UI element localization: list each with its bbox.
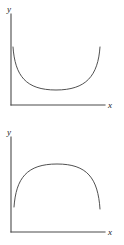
curve-concave-up (13, 47, 100, 90)
x-axis-label-bottom: x (107, 227, 112, 237)
axes-top (11, 14, 105, 105)
x-axis-label-top: x (107, 100, 112, 110)
curve-concave-down (14, 164, 100, 209)
plot-panel-bottom: y x (0, 123, 124, 245)
axes-bottom (11, 137, 105, 232)
plot-panel-top: y x (0, 0, 124, 122)
figure-stack: y x y x (0, 0, 124, 245)
y-axis-label-top: y (6, 4, 11, 14)
y-axis-label-bottom: y (6, 127, 11, 137)
